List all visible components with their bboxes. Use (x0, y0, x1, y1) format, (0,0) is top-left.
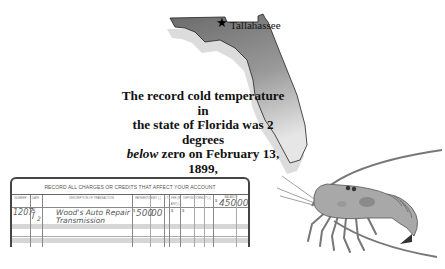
fact-line: The record cold temperature in (118, 89, 288, 118)
capital-label: Tallahassee (230, 19, 281, 31)
fact-text: The record cold temperature in the state… (118, 89, 288, 191)
col-header-date: DATE (30, 195, 41, 207)
payment-cents: 00 (151, 208, 162, 218)
fact-line: the state of Florida was 2 degrees (118, 118, 288, 147)
col-header-number: NUMBER (12, 195, 29, 207)
balance-amount: 450 (219, 198, 236, 208)
lobster-illustration (272, 146, 445, 261)
lobster-body (314, 184, 418, 236)
fact-line: below zero on February 13, 1899, (118, 147, 288, 176)
col-header-payment: PAYMENT/DEBIT (-) (132, 195, 164, 207)
description-memo: Transmission (56, 216, 105, 225)
emphasis-below: below (127, 146, 159, 161)
star-icon: ★ (216, 16, 228, 29)
check-register: RECORD ALL CHARGES OR CREDITS THAT AFFEC… (10, 177, 250, 247)
date-day: 2 (37, 215, 41, 222)
col-header-description: DESCRIPTION OF TRANSACTION (42, 195, 141, 207)
check-number: 1207 (13, 208, 33, 217)
balance-cents: 00 (237, 198, 248, 208)
date-slash: / (32, 211, 35, 221)
register-grid: NUMBER DATE DESCRIPTION OF TRANSACTION P… (12, 194, 248, 247)
col-header-deposit: DEPOSIT/CREDIT (+) (182, 195, 212, 207)
register-title: RECORD ALL CHARGES OR CREDITS THAT AFFEC… (12, 184, 248, 190)
